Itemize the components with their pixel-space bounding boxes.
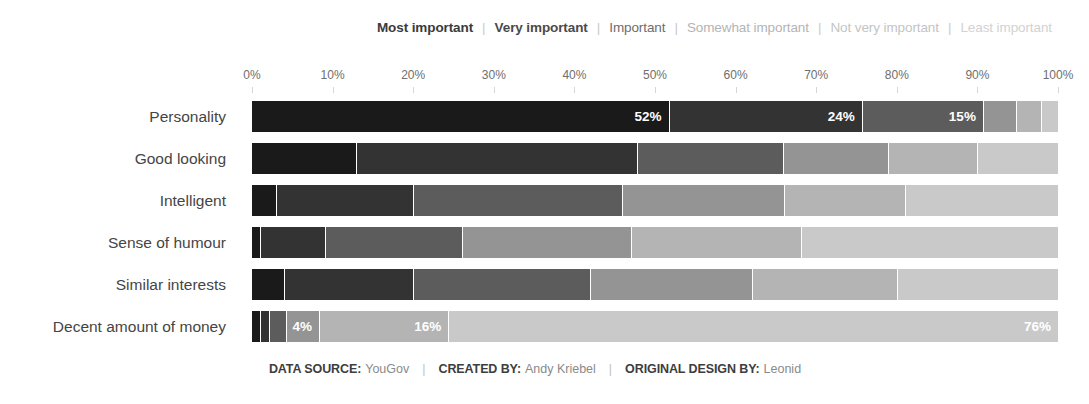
axis-tick-label: 80% — [885, 68, 909, 82]
legend-separator: | — [665, 20, 687, 35]
bar-segment[interactable]: 15% — [863, 101, 984, 132]
bar-segment-value: 24% — [828, 109, 862, 124]
bar-segment[interactable] — [285, 269, 414, 300]
legend-item-important[interactable]: Important — [609, 20, 665, 35]
credit-key: DATA SOURCE: — [269, 362, 361, 376]
bar-segment[interactable] — [270, 311, 287, 342]
bar-segment[interactable] — [252, 143, 357, 174]
legend-item-somewhat-important[interactable]: Somewhat important — [687, 20, 809, 35]
axis-tick-label: 30% — [482, 68, 506, 82]
bar-segment-value: 76% — [1024, 319, 1058, 334]
axis-tick-label: 70% — [804, 68, 828, 82]
bar-segment[interactable] — [252, 185, 277, 216]
bar-segment[interactable] — [802, 227, 1058, 258]
axis-tick-label: 10% — [321, 68, 345, 82]
chart-row: Intelligent — [0, 185, 1089, 216]
bar-segment[interactable] — [984, 101, 1017, 132]
bar-segment[interactable] — [1042, 101, 1058, 132]
axis-tick-label: 0% — [243, 68, 260, 82]
row-label-similar-interests: Similar interests — [0, 269, 238, 300]
bar-segment[interactable] — [591, 269, 752, 300]
axis-tick-label: 20% — [401, 68, 425, 82]
stacked-bar: 4%16%76% — [252, 311, 1058, 342]
bar-segment[interactable] — [638, 143, 783, 174]
chart-row: Personality52%24%15% — [0, 101, 1089, 132]
credit-key: ORIGINAL DESIGN BY: — [625, 362, 759, 376]
axis-tick-mark — [413, 87, 414, 93]
bar-segment[interactable] — [623, 185, 784, 216]
legend-item-very-important[interactable]: Very important — [495, 20, 588, 35]
axis-tick-label: 100% — [1043, 68, 1074, 82]
bar-segment[interactable] — [898, 269, 1058, 300]
bar-segment[interactable] — [252, 269, 285, 300]
legend-separator: | — [809, 20, 831, 35]
axis-tick-label: 90% — [965, 68, 989, 82]
stacked-bar-chart: Most important|Very important|Important|… — [0, 0, 1089, 404]
axis-tick-mark — [977, 87, 978, 93]
bar-segment[interactable]: 16% — [320, 311, 449, 342]
row-label-personality: Personality — [0, 101, 238, 132]
axis-tick-label: 60% — [724, 68, 748, 82]
chart-row: Good looking — [0, 143, 1089, 174]
bar-segment[interactable] — [889, 143, 978, 174]
bar-segment[interactable] — [753, 269, 898, 300]
bar-segment-value: 52% — [634, 109, 668, 124]
chart-row: Decent amount of money4%16%76% — [0, 311, 1089, 342]
chart-credits: DATA SOURCE:YouGov|CREATED BY:Andy Krieb… — [0, 362, 1070, 376]
bar-segment-value: 16% — [414, 319, 448, 334]
axis-tick-mark — [897, 87, 898, 93]
bar-segment[interactable] — [414, 269, 591, 300]
legend-separator: | — [588, 20, 610, 35]
bar-segment[interactable] — [261, 311, 270, 342]
axis-tick-mark — [574, 87, 575, 93]
bar-segment[interactable] — [784, 143, 889, 174]
axis-tick-label: 40% — [562, 68, 586, 82]
axis-tick-mark — [655, 87, 656, 93]
bar-segment[interactable] — [252, 227, 261, 258]
bar-segment-value: 15% — [949, 109, 983, 124]
bar-segment[interactable] — [906, 185, 1058, 216]
chart-plot-area: Personality52%24%15%Good lookingIntellig… — [0, 101, 1089, 353]
axis-tick-label: 50% — [643, 68, 667, 82]
credit-value: Leonid — [760, 362, 802, 376]
row-label-good-looking: Good looking — [0, 143, 238, 174]
legend-item-most-important[interactable]: Most important — [377, 20, 473, 35]
legend-item-least-important[interactable]: Least important — [960, 20, 1052, 35]
axis-tick-mark — [494, 87, 495, 93]
bar-segment[interactable] — [463, 227, 632, 258]
bar-segment[interactable] — [261, 227, 326, 258]
axis-tick-mark — [252, 87, 253, 93]
credit-value: YouGov — [361, 362, 409, 376]
legend-item-not-very-important[interactable]: Not very important — [830, 20, 939, 35]
stacked-bar — [252, 185, 1058, 216]
bar-segment[interactable] — [277, 185, 414, 216]
bar-segment[interactable]: 4% — [287, 311, 320, 342]
credit-key: CREATED BY: — [439, 362, 521, 376]
credit-separator: | — [596, 362, 625, 376]
stacked-bar — [252, 143, 1058, 174]
row-label-sense-of-humour: Sense of humour — [0, 227, 238, 258]
bar-segment[interactable]: 52% — [252, 101, 670, 132]
axis-tick-mark — [333, 87, 334, 93]
chart-row: Sense of humour — [0, 227, 1089, 258]
credit-separator: | — [409, 362, 438, 376]
bar-segment[interactable] — [632, 227, 801, 258]
axis-tick-mark — [736, 87, 737, 93]
axis-tick-mark — [1058, 87, 1059, 93]
bar-segment[interactable] — [357, 143, 638, 174]
row-label-intelligent: Intelligent — [0, 185, 238, 216]
stacked-bar — [252, 269, 1058, 300]
bar-segment[interactable] — [252, 311, 261, 342]
chart-legend: Most important|Very important|Important|… — [0, 20, 1070, 35]
chart-row: Similar interests — [0, 269, 1089, 300]
bar-segment[interactable] — [414, 185, 623, 216]
bar-segment[interactable] — [326, 227, 463, 258]
row-label-decent-amount-of-money: Decent amount of money — [0, 311, 238, 342]
bar-segment[interactable] — [978, 143, 1058, 174]
bar-segment[interactable] — [785, 185, 906, 216]
stacked-bar — [252, 227, 1058, 258]
bar-segment[interactable]: 24% — [670, 101, 863, 132]
stacked-bar: 52%24%15% — [252, 101, 1058, 132]
bar-segment[interactable]: 76% — [449, 311, 1058, 342]
bar-segment[interactable] — [1017, 101, 1042, 132]
